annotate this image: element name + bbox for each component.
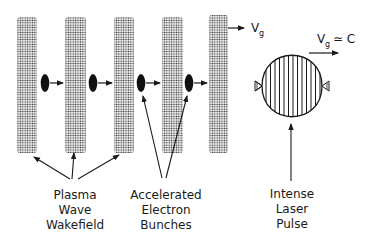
svg-text:Electron: Electron — [141, 203, 190, 217]
svg-text:Accelerated: Accelerated — [130, 188, 201, 202]
laser-pulse — [255, 40, 329, 132]
wake-column-4 — [162, 17, 183, 153]
wake-velocity: V g — [228, 21, 264, 38]
laser-velocity-relation: ≃ C — [333, 32, 355, 46]
electron-bunch-1 — [41, 74, 50, 92]
label-wakefield: Plasma Wave Wakefield — [46, 188, 104, 232]
wake-column-1 — [17, 17, 37, 153]
wake-velocity-subscript: g — [259, 29, 264, 38]
svg-text:Laser: Laser — [276, 202, 309, 216]
plasma-wakefield-diagram: V g V g ≃ C — [0, 0, 367, 242]
svg-text:Pulse: Pulse — [276, 217, 308, 231]
wakefield-pointers — [34, 153, 119, 179]
laser-velocity: V g ≃ C — [309, 32, 355, 53]
svg-text:Wave: Wave — [59, 203, 92, 217]
wake-column-5 — [209, 15, 228, 153]
label-laser: Intense Laser Pulse — [270, 187, 314, 231]
electron-bunch-4 — [185, 74, 194, 92]
svg-text:Intense: Intense — [270, 187, 314, 201]
wake-column-3 — [114, 17, 134, 153]
svg-text:Plasma: Plasma — [53, 188, 96, 202]
svg-text:Bunches: Bunches — [140, 218, 191, 232]
laser-velocity-subscript: g — [325, 40, 330, 49]
label-bunches: Accelerated Electron Bunches — [130, 188, 201, 232]
electron-bunch-2 — [89, 74, 98, 92]
svg-text:Wakefield: Wakefield — [46, 218, 104, 232]
wake-column-2 — [65, 17, 86, 153]
electron-bunch-3 — [137, 74, 146, 92]
